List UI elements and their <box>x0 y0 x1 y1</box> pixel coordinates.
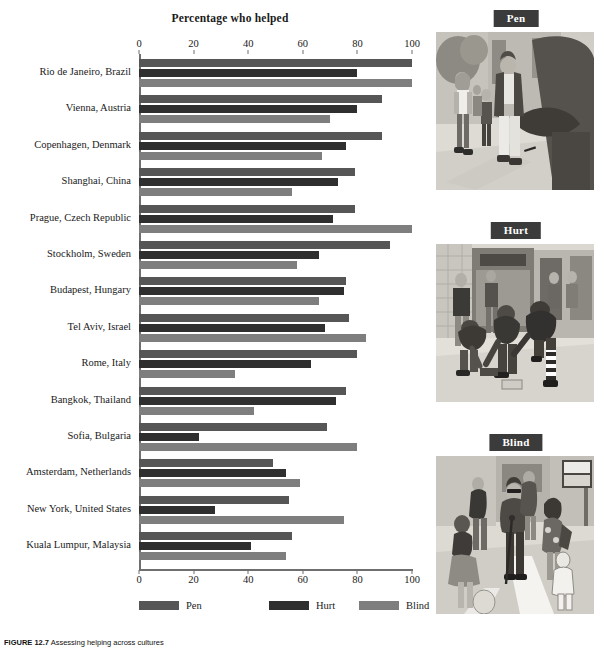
bar-hurt <box>139 360 311 368</box>
chart-category-group: Tel Aviv, Israel <box>0 314 424 342</box>
x-axis-tickmarks-top <box>0 50 424 55</box>
panel-tag-blind: Blind <box>489 434 542 451</box>
x-tick-mark <box>412 50 413 54</box>
bar-hurt <box>139 142 346 150</box>
x-axis-ticks-bottom: 020406080100 <box>0 574 424 588</box>
category-label: Kuala Lumpur, Malaysia <box>0 539 131 550</box>
figure-caption-number: FIGURE 12.7 <box>4 638 49 647</box>
chart-category-group: Budapest, Hungary <box>0 277 424 305</box>
chart-category-group: Copenhagen, Denmark <box>0 132 424 160</box>
x-tick-mark <box>302 570 303 574</box>
bar-blind <box>139 479 300 487</box>
bar-blind <box>139 334 366 342</box>
category-label: New York, United States <box>0 503 131 514</box>
bar-chart: Percentage who helped 020406080100 02040… <box>0 0 424 632</box>
x-tick-label: 40 <box>243 574 254 585</box>
legend-item-blind[interactable]: Blind <box>359 595 429 609</box>
legend-swatch-blind <box>359 601 399 610</box>
category-label: Shanghai, China <box>0 175 131 186</box>
x-axis-tickmarks-bottom <box>0 570 424 575</box>
x-tick-mark <box>357 50 358 54</box>
x-tick-label: 60 <box>298 38 309 49</box>
bar-hurt <box>139 215 333 223</box>
figure-caption-text: Assessing helping across cultures <box>51 638 164 647</box>
chart-title: Percentage who helped <box>0 12 424 24</box>
bar-blind <box>139 152 322 160</box>
bar-blind <box>139 115 330 123</box>
legend-label-hurt: Hurt <box>316 600 335 611</box>
x-tick-label: 100 <box>404 574 420 585</box>
bar-pen <box>139 314 349 322</box>
category-label: Tel Aviv, Israel <box>0 321 131 332</box>
figure-container: Percentage who helped 020406080100 02040… <box>0 0 604 649</box>
x-tick-label: 0 <box>136 38 141 49</box>
x-tick-mark <box>193 570 194 574</box>
chart-category-group: Amsterdam, Netherlands <box>0 459 424 487</box>
bar-hurt <box>139 251 319 259</box>
bar-pen <box>139 277 346 285</box>
category-label: Sofia, Bulgaria <box>0 430 131 441</box>
bar-hurt <box>139 178 338 186</box>
x-tick-mark <box>248 570 249 574</box>
bar-hurt <box>139 397 336 405</box>
x-tick-mark <box>302 50 303 54</box>
category-label: Bangkok, Thailand <box>0 394 131 405</box>
bar-pen <box>139 241 390 249</box>
legend-item-pen[interactable]: Pen <box>139 595 202 609</box>
x-tick-mark <box>139 50 140 54</box>
illustration-panels: Pen <box>428 10 604 635</box>
bar-blind <box>139 370 235 378</box>
legend-label-pen: Pen <box>186 600 202 611</box>
chart-category-group: Bangkok, Thailand <box>0 387 424 415</box>
bar-pen <box>139 132 382 140</box>
x-tick-label: 60 <box>298 574 309 585</box>
chart-legend: PenHurtBlind <box>139 595 419 609</box>
x-tick-mark <box>248 50 249 54</box>
chart-category-group: Rio de Janeiro, Brazil <box>0 59 424 87</box>
chart-category-group: Sofia, Bulgaria <box>0 423 424 451</box>
chart-category-group: New York, United States <box>0 496 424 524</box>
legend-item-hurt[interactable]: Hurt <box>269 595 335 609</box>
bar-pen <box>139 387 346 395</box>
category-label: Rio de Janeiro, Brazil <box>0 66 131 77</box>
figure-caption: FIGURE 12.7 Assessing helping across cul… <box>4 638 424 649</box>
x-tick-mark <box>412 570 413 574</box>
bar-blind <box>139 79 412 87</box>
bar-pen <box>139 205 355 213</box>
bar-blind <box>139 552 286 560</box>
bar-pen <box>139 496 289 504</box>
chart-category-group: Kuala Lumpur, Malaysia <box>0 532 424 560</box>
category-label: Budapest, Hungary <box>0 284 131 295</box>
bar-blind <box>139 188 292 196</box>
category-label: Rome, Italy <box>0 357 131 368</box>
bar-pen <box>139 532 292 540</box>
pen-illustration <box>436 32 594 190</box>
legend-swatch-pen <box>139 601 179 610</box>
x-tick-label: 20 <box>188 38 199 49</box>
chart-category-group: Stockholm, Sweden <box>0 241 424 269</box>
bar-hurt <box>139 69 357 77</box>
hurt-illustration <box>436 244 594 402</box>
chart-category-group: Shanghai, China <box>0 168 424 196</box>
bar-blind <box>139 225 412 233</box>
panel-tag-hurt: Hurt <box>491 222 541 239</box>
x-tick-label: 40 <box>243 38 254 49</box>
x-tick-mark <box>139 570 140 574</box>
category-label: Vienna, Austria <box>0 102 131 113</box>
bar-blind <box>139 516 344 524</box>
x-tick-label: 80 <box>352 574 363 585</box>
panel-tag-pen: Pen <box>494 10 539 27</box>
chart-category-group: Vienna, Austria <box>0 95 424 123</box>
chart-category-group: Rome, Italy <box>0 350 424 378</box>
category-label: Copenhagen, Denmark <box>0 139 131 150</box>
x-tick-label: 0 <box>136 574 141 585</box>
category-label: Stockholm, Sweden <box>0 248 131 259</box>
bar-blind <box>139 407 254 415</box>
x-tick-mark <box>193 50 194 54</box>
legend-label-blind: Blind <box>406 600 429 611</box>
x-tick-label: 20 <box>188 574 199 585</box>
bar-hurt <box>139 287 344 295</box>
bar-hurt <box>139 469 286 477</box>
bar-hurt <box>139 506 215 514</box>
bar-hurt <box>139 542 251 550</box>
